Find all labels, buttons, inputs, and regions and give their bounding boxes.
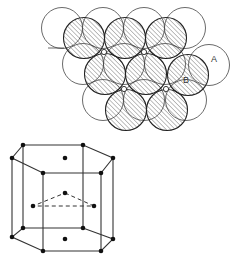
atom-dot bbox=[99, 249, 104, 254]
close-packed-layers-diagram: A B bbox=[42, 8, 230, 131]
label-a: A bbox=[211, 54, 217, 64]
hcp-figure: A B bbox=[0, 0, 234, 259]
middle-layer-triangle bbox=[33, 193, 94, 206]
bottom-hexagon bbox=[12, 228, 113, 251]
atom-dot bbox=[81, 143, 86, 148]
void-site bbox=[141, 49, 146, 54]
void-site bbox=[163, 86, 168, 91]
atom-dot bbox=[41, 171, 46, 176]
atom-dot bbox=[111, 156, 116, 161]
atom-dot bbox=[63, 191, 68, 196]
atom-dot bbox=[31, 204, 36, 209]
atom-dot bbox=[63, 237, 68, 242]
void-site bbox=[121, 86, 126, 91]
atom-dot bbox=[10, 235, 15, 240]
dashed-triangle bbox=[33, 193, 94, 206]
atom-dot bbox=[99, 171, 104, 176]
atom-dot bbox=[41, 249, 46, 254]
atom-dot bbox=[81, 226, 86, 231]
unit-cell-atoms bbox=[10, 143, 116, 254]
atom-dot bbox=[21, 143, 26, 148]
unit-cell-edges bbox=[12, 145, 113, 251]
atom-dot bbox=[21, 226, 26, 231]
atom-dot bbox=[63, 156, 68, 161]
hcp-unit-cell-diagram bbox=[10, 143, 116, 254]
atom-dot bbox=[92, 204, 97, 209]
top-hexagon bbox=[12, 145, 113, 173]
atom-dot bbox=[111, 237, 116, 242]
void-site bbox=[101, 49, 106, 54]
atom-dot bbox=[10, 156, 15, 161]
label-b: B bbox=[183, 75, 189, 85]
